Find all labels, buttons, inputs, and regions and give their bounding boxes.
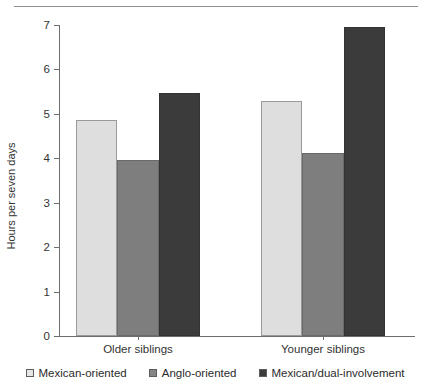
bar-3-group-2 xyxy=(344,27,385,336)
bar-1-group-1 xyxy=(76,120,117,336)
legend-item-3: Mexican/dual-involvement xyxy=(259,367,405,379)
y-tick-mark xyxy=(54,158,59,159)
bar-1-group-2 xyxy=(261,101,302,336)
legend-item-2: Anglo-oriented xyxy=(149,367,237,379)
y-tick-label: 3 xyxy=(44,197,50,209)
plot-area: 01234567 Older siblingsYounger siblings xyxy=(59,25,415,336)
y-axis-title: Hours per seven days xyxy=(5,142,17,249)
y-tick-mark xyxy=(54,247,59,248)
x-tick-mark xyxy=(323,336,324,340)
bar-2-group-2 xyxy=(302,153,343,336)
x-tick-mark xyxy=(138,336,139,340)
y-tick-mark xyxy=(54,25,59,26)
y-tick-label: 2 xyxy=(44,241,50,253)
legend-item-1: Mexican-oriented xyxy=(26,367,127,379)
y-axis-line xyxy=(59,25,60,336)
y-tick-label: 5 xyxy=(44,108,50,120)
bar-2-group-1 xyxy=(117,160,158,336)
legend-swatch-icon xyxy=(259,369,267,377)
y-tick-mark xyxy=(54,69,59,70)
y-tick-label: 4 xyxy=(44,152,50,164)
x-axis-line xyxy=(59,336,415,337)
top-divider-rule xyxy=(14,6,418,7)
bar-3-group-1 xyxy=(159,93,200,336)
legend-label: Mexican-oriented xyxy=(39,367,127,379)
y-tick-label: 7 xyxy=(44,19,50,31)
x-category-label: Older siblings xyxy=(103,343,173,355)
y-tick-label: 6 xyxy=(44,63,50,75)
legend-label: Mexican/dual-involvement xyxy=(272,367,405,379)
y-tick-label: 1 xyxy=(44,286,50,298)
y-tick-mark xyxy=(54,203,59,204)
x-category-label: Younger siblings xyxy=(281,343,365,355)
legend-swatch-icon xyxy=(149,369,157,377)
y-tick-mark xyxy=(54,114,59,115)
y-tick-mark xyxy=(54,336,59,337)
bar-chart-figure: Hours per seven days 01234567 Older sibl… xyxy=(0,0,430,391)
chart-legend: Mexican-orientedAnglo-orientedMexican/du… xyxy=(0,367,430,379)
legend-swatch-icon xyxy=(26,369,34,377)
legend-label: Anglo-oriented xyxy=(162,367,237,379)
y-tick-label: 0 xyxy=(44,330,50,342)
y-tick-mark xyxy=(54,292,59,293)
